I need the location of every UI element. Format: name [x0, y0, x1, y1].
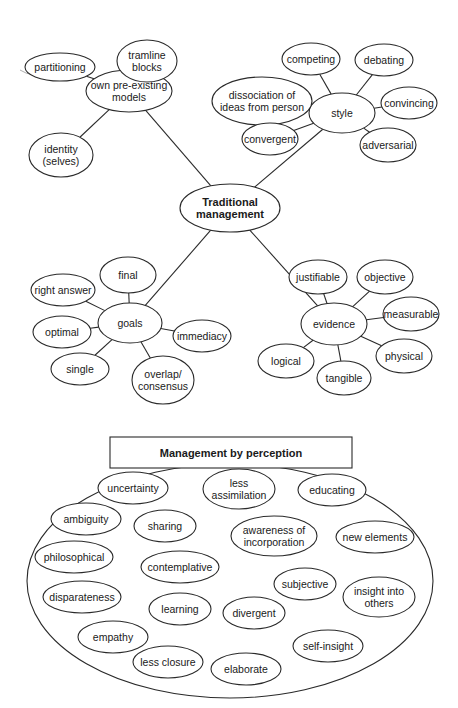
elaborate-label: elaborate: [224, 663, 268, 675]
models-label: models: [112, 91, 146, 103]
node-insight-into-others: insight intoothers: [343, 577, 415, 617]
connector-style-competing: [320, 74, 331, 94]
connector-evidence-physical: [361, 336, 382, 346]
node-measurable: measurable: [383, 297, 439, 331]
node-philosophical: philosophical: [35, 541, 113, 573]
node-tangible: tangible: [317, 361, 371, 395]
node-partitioning: partitioning: [25, 53, 95, 81]
debating-label: debating: [364, 54, 404, 66]
subjective-label: subjective: [282, 578, 329, 590]
node-ambiguity: ambiguity: [51, 503, 121, 535]
less-closure-label: less closure: [140, 656, 196, 668]
identity-label: (selves): [43, 155, 80, 167]
node-immediacy: immediacy: [173, 320, 231, 352]
node-evidence: evidence: [301, 303, 367, 345]
connector-evidence-tangible: [338, 345, 341, 361]
node-self-insight: self-insight: [293, 630, 363, 662]
convincing-label: convincing: [384, 97, 434, 109]
node-empathy: empathy: [78, 621, 148, 653]
connector-goals-overlap-consensus: [141, 342, 150, 358]
traditional-management-map: own pre-existingmodelspartitioningtramli…: [25, 40, 439, 404]
divergent-label: divergent: [232, 607, 275, 619]
new-elements-label: new elements: [343, 531, 408, 543]
objective-label: objective: [364, 271, 406, 283]
less-assimilation-label: less: [230, 477, 249, 489]
logical-label: logical: [271, 355, 301, 367]
philosophical-label: philosophical: [44, 551, 105, 563]
educating-label: educating: [309, 484, 355, 496]
self-insight-label: self-insight: [303, 640, 353, 652]
measurable-label: measurable: [384, 308, 439, 320]
connector-goals-optimal: [90, 327, 98, 328]
physical-label: physical: [385, 350, 423, 362]
dissociation-label: ideas from person: [220, 101, 304, 113]
connector-traditional-goals: [145, 230, 210, 305]
node-sharing: sharing: [134, 510, 196, 542]
ambiguity-label: ambiguity: [64, 513, 110, 525]
node-new-elements: new elements: [336, 521, 414, 553]
node-adversarial: adversarial: [360, 128, 416, 162]
traditional-label: management: [196, 208, 264, 220]
node-physical: physical: [376, 339, 432, 373]
management-by-perception-panel: uncertaintylessassimilationeducatingambi…: [27, 437, 433, 698]
perception-title-box: Management by perception: [110, 437, 352, 468]
connector-evidence-logical: [303, 340, 313, 347]
node-less-assimilation: lessassimilation: [203, 469, 275, 509]
connector-evidence-objective: [353, 291, 370, 307]
uncertainty-label: uncertainty: [107, 482, 159, 494]
connector-evidence-measurable: [366, 318, 383, 320]
awareness-of-incorporation-label: awareness of: [243, 524, 306, 536]
single-label: single: [66, 363, 94, 375]
insight-into-others-label: insight into: [354, 585, 404, 597]
final-label: final: [118, 269, 137, 281]
node-learning: learning: [149, 593, 211, 625]
overlap-consensus-label: consensus: [138, 380, 188, 392]
optimal-label: optimal: [45, 326, 79, 338]
contemplative-label: contemplative: [148, 561, 213, 573]
node-single: single: [51, 353, 109, 385]
connector-goals-right-answer: [86, 301, 105, 310]
node-debating: debating: [355, 44, 413, 76]
node-dissociation: dissociation ofideas from person: [212, 77, 312, 125]
insight-into-others-label: others: [364, 597, 393, 609]
tramline-blocks-label: tramline: [128, 49, 166, 61]
convergent-label: convergent: [244, 133, 296, 145]
evidence-label: evidence: [313, 318, 355, 330]
connector-style-convincing: [374, 107, 382, 108]
node-goals: goals: [98, 303, 162, 343]
right-answer-label: right answer: [34, 284, 92, 296]
connector-style-convergent: [294, 123, 314, 130]
concept-diagram: own pre-existingmodelspartitioningtramli…: [0, 0, 458, 708]
identity-label: identity: [44, 143, 78, 155]
node-convincing: convincing: [381, 87, 437, 119]
sharing-label: sharing: [148, 520, 183, 532]
node-contemplative: contemplative: [141, 551, 219, 583]
node-overlap-consensus: overlap/consensus: [132, 356, 194, 404]
overlap-consensus-label: overlap/: [144, 368, 181, 380]
node-disparateness: disparateness: [43, 581, 121, 613]
node-subjective: subjective: [274, 568, 336, 600]
node-tramline-blocks: tramlineblocks: [117, 40, 177, 82]
node-optimal: optimal: [33, 316, 91, 348]
node-competing: competing: [282, 43, 340, 75]
goals-label: goals: [117, 317, 142, 329]
node-awareness-of-incorporation: awareness ofincorporation: [231, 516, 317, 556]
dissociation-label: dissociation of: [229, 89, 296, 101]
node-convergent: convergent: [242, 123, 298, 155]
awareness-of-incorporation-label: incorporation: [244, 536, 305, 548]
competing-label: competing: [287, 53, 336, 65]
adversarial-label: adversarial: [362, 139, 413, 151]
node-final: final: [100, 257, 156, 293]
node-divergent: divergent: [223, 597, 285, 629]
tangible-label: tangible: [326, 372, 363, 384]
perception-title: Management by perception: [160, 447, 303, 459]
immediacy-label: immediacy: [177, 330, 228, 342]
connector-models-identity: [80, 110, 109, 138]
empathy-label: empathy: [93, 631, 134, 643]
partitioning-label: partitioning: [34, 61, 86, 73]
node-justifiable: justifiable: [289, 260, 347, 294]
connector-traditional-models: [146, 110, 211, 185]
justifiable-label: justifiable: [295, 271, 340, 283]
node-less-closure: less closure: [133, 646, 203, 678]
connector-style-adversarial: [364, 128, 370, 132]
